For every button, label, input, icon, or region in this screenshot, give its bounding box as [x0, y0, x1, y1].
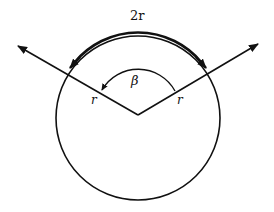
- arc-2r: [75, 32, 201, 62]
- ray-left: [18, 46, 138, 115]
- diagram-canvas: 2r β r r: [0, 0, 274, 212]
- circle-radian-diagram: [0, 0, 274, 212]
- radius-left-label: r: [91, 94, 97, 106]
- circle: [56, 36, 220, 200]
- radius-left-text: r: [91, 93, 97, 107]
- arc-length-label: 2r: [130, 9, 145, 22]
- radius-right-text: r: [177, 93, 183, 107]
- ray-right: [138, 44, 258, 115]
- radius-right-label: r: [177, 94, 183, 106]
- angle-label: β: [131, 74, 139, 87]
- angle-text: β: [131, 73, 139, 88]
- arc-length-text: 2r: [130, 8, 145, 23]
